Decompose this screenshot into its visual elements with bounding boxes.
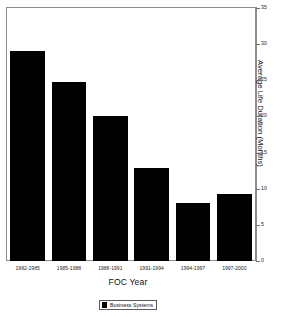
y-tick-label-35: 35: [261, 5, 267, 10]
y-tick-10: [256, 189, 260, 190]
y-tick-label-10: 10: [261, 186, 267, 191]
bar-1997-2000: [217, 8, 252, 261]
bar-fill: [52, 82, 87, 261]
x-axis-label-1994-1997: 1994-1997: [172, 265, 213, 271]
bars-layer: [7, 8, 255, 261]
bar-1988-1991: [93, 8, 128, 261]
y-tick-25: [256, 80, 260, 81]
bar-chart: Average Life Duration (Months) FOC Year …: [0, 0, 289, 317]
bar-1994-1997: [176, 8, 211, 261]
y-tick-20: [256, 116, 260, 117]
y-tick-label-20: 20: [261, 114, 267, 119]
y-tick-35: [256, 8, 260, 9]
legend-swatch-business-systems: [102, 302, 107, 308]
bar-1985-1988: [52, 8, 87, 261]
y-tick-label-15: 15: [261, 150, 267, 155]
y-tick-30: [256, 44, 260, 45]
bar-fill: [93, 116, 128, 261]
x-axis-label-1985-1988: 1985-1988: [48, 265, 89, 271]
chart-legend: Business Systems: [99, 300, 157, 310]
x-axis-label-1997-2000: 1997-2000: [214, 265, 255, 271]
y-tick-15: [256, 153, 260, 154]
x-axis-label-1991-1994: 1991-1994: [131, 265, 172, 271]
y-tick-label-0: 0: [261, 258, 264, 263]
bar-fill: [10, 51, 45, 261]
y-axis-title: Average Life Duration (Months): [256, 60, 264, 220]
bar-fill: [134, 168, 169, 261]
bar-fill: [176, 203, 211, 261]
y-tick-label-30: 30: [261, 42, 267, 47]
x-axis-title: FOC Year: [0, 277, 256, 287]
bar-1991-1994: [134, 8, 169, 261]
bar-fill: [217, 194, 252, 261]
legend-label-business-systems: Business Systems: [110, 302, 153, 308]
y-tick-5: [256, 225, 260, 226]
x-axis-label-1988-1991: 1988-1991: [90, 265, 131, 271]
y-tick-label-25: 25: [261, 78, 267, 83]
y-tick-0: [256, 261, 260, 262]
bar-1982-1985: [10, 8, 45, 261]
x-axis-label-1982-1985: 1982-1985: [7, 265, 48, 271]
y-tick-label-5: 5: [261, 222, 264, 227]
